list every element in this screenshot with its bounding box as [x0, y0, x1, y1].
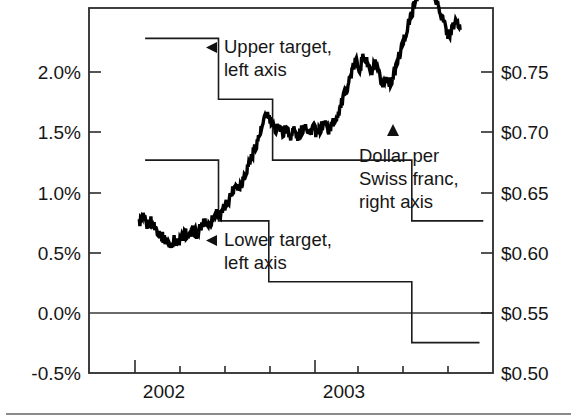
left-tick-label: 0.0% [38, 303, 81, 324]
left-triangle-icon [206, 235, 217, 246]
left-tick-label: 2.0% [38, 62, 81, 83]
annotation-upper-target: Upper target, left axis [206, 36, 332, 80]
chart-figure: 2.0% 1.5% 1.0% 0.5% 0.0% -0.5% $0.75 $0.… [0, 0, 577, 420]
right-tick-label: $0.60 [501, 243, 549, 264]
left-tick-label: -0.5% [31, 363, 81, 384]
up-triangle-icon [387, 124, 399, 136]
left-tick-label: 1.5% [38, 122, 81, 143]
x-tick-label-2002: 2002 [143, 381, 185, 402]
x-axis-ticks [135, 360, 448, 373]
dollar-label-line2: Swiss franc, [359, 168, 459, 189]
right-tick-label: $0.55 [501, 303, 549, 324]
annotation-dollar-per-swiss-franc: Dollar per Swiss franc, right axis [359, 124, 459, 212]
left-tick-label: 1.0% [38, 183, 81, 204]
right-axis-ticks [481, 72, 493, 313]
dollar-label-line3: right axis [359, 191, 433, 212]
chart-canvas: 2.0% 1.5% 1.0% 0.5% 0.0% -0.5% $0.75 $0.… [0, 0, 577, 420]
dollar-label-line1: Dollar per [359, 145, 439, 166]
right-tick-label: $0.50 [501, 363, 549, 384]
right-tick-label: $0.75 [501, 62, 549, 83]
right-axis-labels: $0.75 $0.70 $0.65 $0.60 $0.55 $0.50 [501, 62, 549, 384]
left-axis-labels: 2.0% 1.5% 1.0% 0.5% 0.0% -0.5% [31, 62, 81, 384]
left-axis-ticks [89, 72, 101, 253]
x-axis-labels: 2002 2003 [143, 381, 365, 402]
x-tick-label-2003: 2003 [323, 381, 365, 402]
lower-target-label-line2: left axis [224, 252, 287, 273]
left-tick-label: 0.5% [38, 243, 81, 264]
right-tick-label: $0.65 [501, 183, 549, 204]
right-tick-label: $0.70 [501, 122, 549, 143]
upper-target-label-line1: Upper target, [224, 36, 332, 57]
left-triangle-icon [206, 42, 217, 53]
upper-target-label-line2: left axis [224, 59, 287, 80]
lower-target-label-line1: Lower target, [224, 229, 332, 250]
